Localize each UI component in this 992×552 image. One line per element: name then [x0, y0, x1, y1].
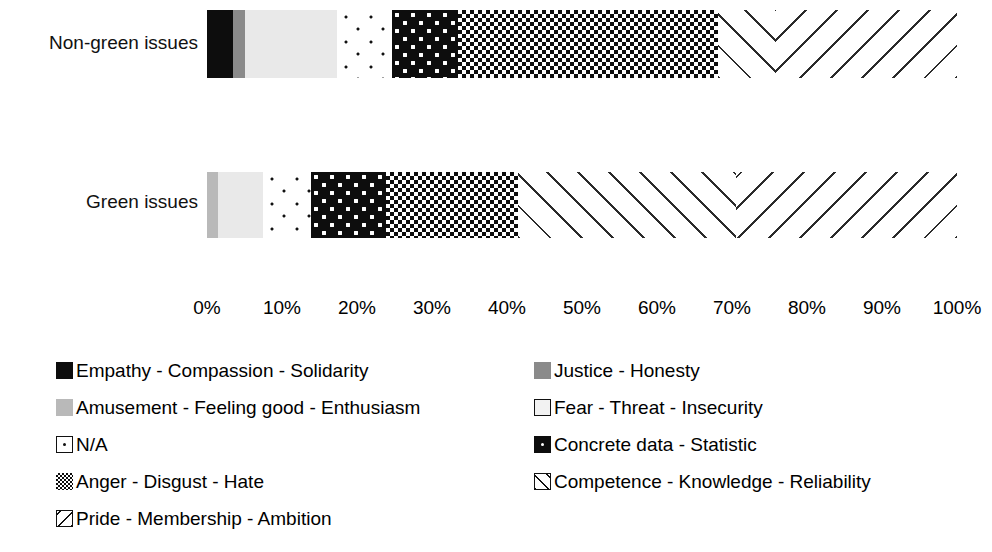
legend-item[interactable]: Anger - Disgust - Hate	[56, 471, 534, 493]
bar-segment	[458, 10, 718, 78]
bar-segment	[518, 172, 736, 238]
bar-green-issues	[207, 172, 957, 238]
bar-segment	[218, 172, 262, 238]
bar-segment	[386, 172, 519, 238]
bar-segment	[233, 10, 244, 78]
legend-item[interactable]: Concrete data - Statistic	[534, 434, 984, 456]
bar-segment	[245, 10, 337, 78]
bar-segment	[207, 10, 233, 78]
bar-segment	[736, 172, 957, 238]
legend-label: Concrete data - Statistic	[554, 434, 757, 456]
bar-segment	[392, 10, 458, 78]
legend-label: Amusement - Feeling good - Enthusiasm	[76, 397, 420, 419]
x-axis-tick: 100%	[933, 296, 982, 320]
legend-row: Empathy - Compassion - SolidarityJustice…	[56, 352, 992, 389]
bar-segment	[718, 10, 775, 78]
category-label-text: Non-green issues	[3, 32, 198, 54]
bar-segment	[263, 172, 311, 238]
legend-row: Pride - Membership - Ambition	[56, 500, 992, 537]
x-axis-tick-labels: 0%10%20%30%40%50%60%70%80%90%100%	[0, 296, 992, 326]
bar-segment	[337, 10, 392, 78]
legend-item[interactable]: Fear - Threat - Insecurity	[534, 397, 984, 419]
x-axis-tick: 40%	[488, 296, 526, 320]
legend-label: Anger - Disgust - Hate	[76, 471, 264, 493]
legend-item[interactable]: Competence - Knowledge - Reliability	[534, 471, 984, 493]
legend-swatch-icon	[56, 399, 73, 416]
x-axis-tick: 30%	[413, 296, 451, 320]
x-axis-tick: 90%	[863, 296, 901, 320]
x-axis-tick: 10%	[263, 296, 301, 320]
legend-swatch-icon	[56, 473, 73, 490]
legend-swatch-icon	[534, 399, 551, 416]
x-axis-tick: 0%	[193, 296, 220, 320]
legend-row: N/AConcrete data - Statistic	[56, 426, 992, 463]
bar-segment	[311, 172, 386, 238]
bar-non-green-issues	[207, 10, 957, 78]
legend-swatch-icon	[56, 362, 73, 379]
x-axis-tick: 20%	[338, 296, 376, 320]
legend-item[interactable]: Pride - Membership - Ambition	[56, 508, 534, 530]
legend-label: Pride - Membership - Ambition	[76, 508, 332, 530]
bar-segment	[775, 10, 957, 78]
legend-swatch-icon	[534, 362, 551, 379]
x-axis-tick: 80%	[788, 296, 826, 320]
category-label-text: Green issues	[3, 191, 198, 213]
x-axis-tick: 50%	[563, 296, 601, 320]
stacked-bar-chart: Non-green issues Green issues 0%10%20%30…	[0, 0, 992, 552]
x-axis-tick: 70%	[713, 296, 751, 320]
legend-item[interactable]: Empathy - Compassion - Solidarity	[56, 360, 534, 382]
legend-swatch-icon	[534, 436, 551, 453]
chart-legend: Empathy - Compassion - SolidarityJustice…	[56, 352, 992, 537]
legend-label: Competence - Knowledge - Reliability	[554, 471, 871, 493]
legend-item[interactable]: Justice - Honesty	[534, 360, 984, 382]
legend-label: Fear - Threat - Insecurity	[554, 397, 763, 419]
x-axis-tick: 60%	[638, 296, 676, 320]
legend-row: Anger - Disgust - HateCompetence - Knowl…	[56, 463, 992, 500]
legend-label: Empathy - Compassion - Solidarity	[76, 360, 369, 382]
bar-segment	[207, 172, 218, 238]
legend-row: Amusement - Feeling good - EnthusiasmFea…	[56, 389, 992, 426]
legend-item[interactable]: Amusement - Feeling good - Enthusiasm	[56, 397, 534, 419]
legend-swatch-icon	[56, 510, 73, 527]
legend-swatch-icon	[56, 436, 73, 453]
plot-area	[207, 0, 957, 300]
legend-swatch-icon	[534, 473, 551, 490]
legend-label: N/A	[76, 434, 108, 456]
legend-item[interactable]: N/A	[56, 434, 534, 456]
legend-label: Justice - Honesty	[554, 360, 700, 382]
